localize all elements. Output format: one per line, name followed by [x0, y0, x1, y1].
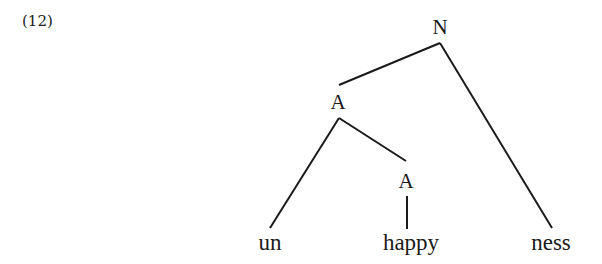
node-a-lower: A: [398, 169, 414, 193]
leaf-ness: ness: [531, 230, 571, 255]
leaf-un: un: [259, 230, 283, 255]
edge-a-to-a: [339, 118, 406, 161]
node-a-upper: A: [330, 90, 346, 114]
edge-n-to-a: [339, 43, 440, 85]
edge-a-to-un: [270, 118, 339, 228]
edge-n-to-ness: [440, 43, 552, 228]
node-n-root: N: [432, 15, 447, 39]
morphology-tree: N A A un happy ness: [0, 0, 602, 264]
leaf-happy: happy: [383, 230, 440, 255]
